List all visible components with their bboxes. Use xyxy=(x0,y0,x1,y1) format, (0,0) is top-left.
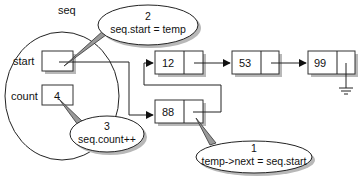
field-count: count 4 xyxy=(11,85,73,105)
node-value: 12 xyxy=(162,57,174,69)
count-value: 4 xyxy=(54,90,60,102)
struct-name-label: seq xyxy=(58,4,76,16)
callout-text: seq.count++ xyxy=(78,133,136,145)
list-node: 53 xyxy=(232,51,282,77)
callout-step-number: 2 xyxy=(145,10,151,22)
linked-list-insert-diagram: seq start count 4 12 53 99 xyxy=(0,0,359,176)
callout-step-number: 1 xyxy=(251,142,257,154)
callout-text: seq.start = temp xyxy=(110,23,186,35)
start-pointer-box xyxy=(42,51,73,71)
list-node: 12 xyxy=(155,51,206,77)
node-value: 99 xyxy=(314,57,326,69)
node-value: 88 xyxy=(162,106,174,118)
node-value: 53 xyxy=(239,57,251,69)
callout-step-1: 1 temp->next = seq.start xyxy=(196,118,315,176)
list-node: 99 xyxy=(308,51,358,77)
callout-step-3: 3 seq.count++ xyxy=(59,99,147,155)
callout-text: temp->next = seq.start xyxy=(201,155,306,167)
callout-step-number: 3 xyxy=(104,120,110,132)
field-label-count: count xyxy=(11,90,38,102)
field-label-start: start xyxy=(13,55,34,67)
